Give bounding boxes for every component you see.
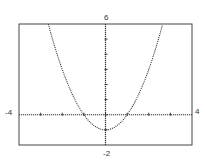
- x-min-label: -4: [5, 109, 12, 117]
- x-max-label: 4: [195, 108, 199, 116]
- graph-window: [0, 0, 205, 164]
- y-max-label: 6: [104, 14, 108, 22]
- y-min-label: -2: [103, 150, 110, 158]
